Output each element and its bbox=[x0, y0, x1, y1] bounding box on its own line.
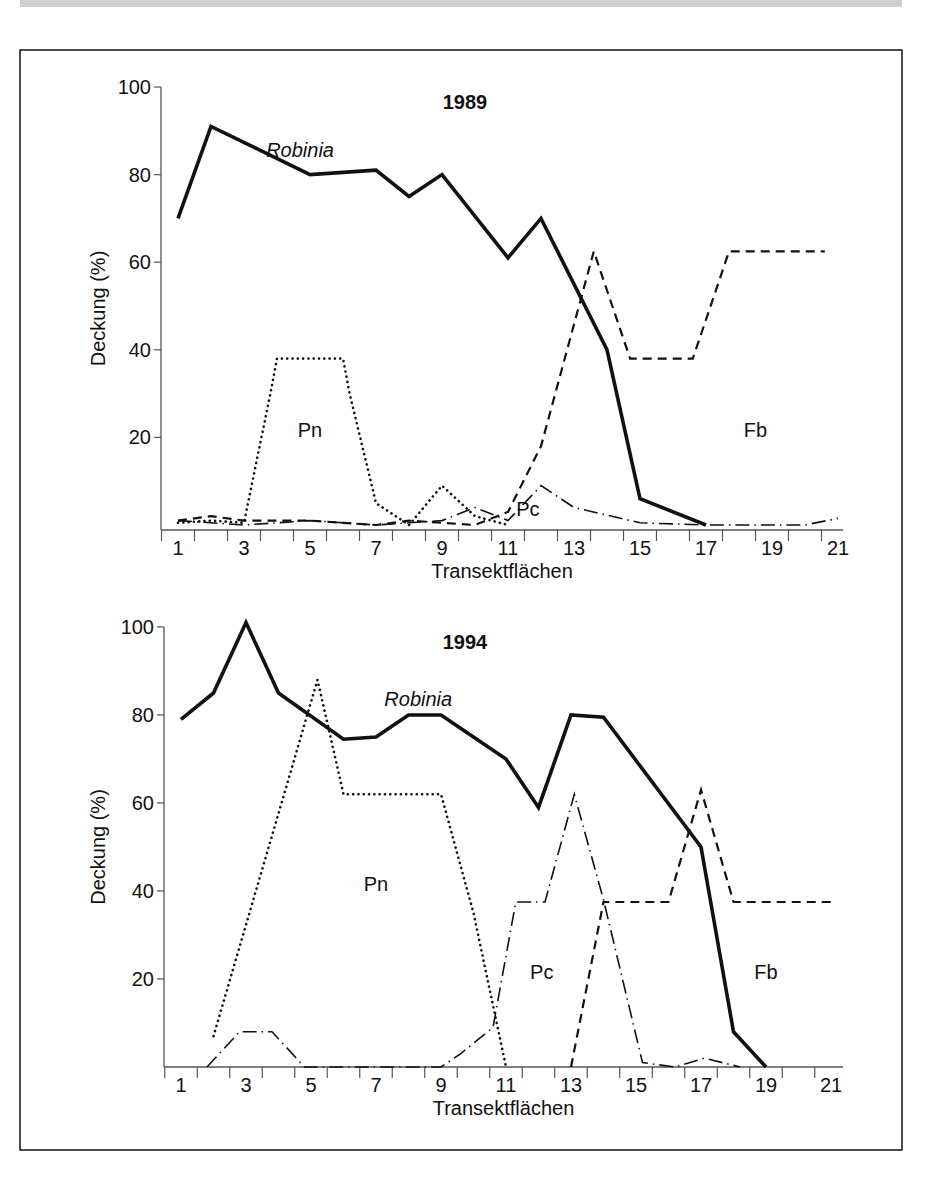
series-line-robinia bbox=[178, 126, 706, 525]
y-tick-label: 20 bbox=[129, 426, 151, 448]
series-label-pn: Pn bbox=[298, 419, 322, 441]
y-tick-label: 100 bbox=[118, 76, 151, 98]
series-label-pc: Pc bbox=[516, 498, 539, 520]
x-tick-label: 1 bbox=[175, 1074, 186, 1096]
panel-1994: 2040608010013579111315171921Transektfläc… bbox=[87, 616, 843, 1119]
series-label-fb: Fb bbox=[744, 419, 767, 441]
y-tick-label: 40 bbox=[129, 339, 151, 361]
series-line-robinia bbox=[181, 623, 766, 1067]
series-line-fb bbox=[178, 251, 825, 525]
series-label-pc: Pc bbox=[530, 961, 553, 983]
x-tick-label: 17 bbox=[690, 1074, 712, 1096]
x-tick-label: 11 bbox=[498, 537, 519, 559]
x-tick-label: 5 bbox=[305, 1074, 316, 1096]
x-tick-label: 9 bbox=[435, 1074, 446, 1096]
x-tick-label: 19 bbox=[755, 1074, 777, 1096]
series-line-pc bbox=[207, 794, 740, 1067]
x-tick-label: 9 bbox=[436, 537, 447, 559]
figure-canvas: 2040608010013579111315171921Transektfläc… bbox=[0, 0, 935, 1193]
y-tick-label: 60 bbox=[132, 792, 154, 814]
y-tick-label: 60 bbox=[129, 251, 151, 273]
chart-title: 1994 bbox=[443, 631, 488, 653]
y-tick-label: 20 bbox=[132, 968, 154, 990]
x-tick-label: 1 bbox=[172, 537, 183, 559]
x-tick-label: 7 bbox=[370, 1074, 381, 1096]
x-tick-label: 7 bbox=[370, 537, 381, 559]
x-tick-label: 17 bbox=[695, 537, 717, 559]
chart-title: 1989 bbox=[443, 91, 488, 113]
x-tick-label: 3 bbox=[240, 1074, 251, 1096]
series-label-robinia: Robinia bbox=[266, 139, 334, 161]
series-line-pn bbox=[178, 359, 508, 525]
y-axis-label: Deckung (%) bbox=[87, 789, 109, 905]
series-line-pc bbox=[178, 486, 838, 525]
x-tick-label: 11 bbox=[496, 1074, 517, 1096]
y-tick-label: 80 bbox=[132, 704, 154, 726]
series-label-robinia: Robinia bbox=[384, 688, 452, 710]
panel-1989: 2040608010013579111315171921Transektfläc… bbox=[87, 76, 849, 582]
series-label-fb: Fb bbox=[754, 961, 777, 983]
x-tick-label: 13 bbox=[560, 1074, 582, 1096]
x-axis-label: Transektflächen bbox=[433, 1097, 575, 1119]
series-label-pn: Pn bbox=[364, 873, 388, 895]
y-axis-label: Deckung (%) bbox=[87, 251, 109, 367]
series-line-fb bbox=[571, 790, 831, 1067]
x-tick-label: 15 bbox=[625, 1074, 647, 1096]
x-tick-label: 19 bbox=[761, 537, 783, 559]
x-tick-label: 13 bbox=[563, 537, 585, 559]
x-tick-label: 15 bbox=[629, 537, 651, 559]
x-tick-label: 21 bbox=[827, 537, 849, 559]
y-tick-label: 80 bbox=[129, 164, 151, 186]
y-tick-label: 40 bbox=[132, 880, 154, 902]
x-tick-label: 21 bbox=[820, 1074, 842, 1096]
y-tick-label: 100 bbox=[121, 616, 154, 638]
x-axis-label: Transektflächen bbox=[431, 560, 573, 582]
x-tick-label: 3 bbox=[238, 537, 249, 559]
x-tick-label: 5 bbox=[304, 537, 315, 559]
